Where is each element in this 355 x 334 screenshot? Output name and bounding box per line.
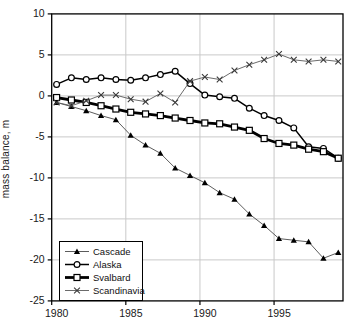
svg-text:-15: -15 <box>30 212 45 224</box>
y-axis-label: mass balance, m <box>0 99 14 219</box>
legend-item-alaska: Alaska <box>64 258 137 271</box>
svg-text:0: 0 <box>39 89 45 101</box>
series-cascade <box>53 99 341 260</box>
cascade-triangle-icon <box>64 246 90 257</box>
legend: Cascade Alaska Svalbard Scandinavia <box>59 241 143 301</box>
svg-text:-25: -25 <box>30 294 45 306</box>
svg-text:1980: 1980 <box>45 307 69 319</box>
alaska-circle-icon <box>64 259 90 270</box>
svalbard-square-icon <box>64 272 90 283</box>
legend-item-svalbard: Svalbard <box>64 271 137 284</box>
legend-item-scandinavia: Scandinavia <box>64 284 137 297</box>
legend-label-scandinavia: Scandinavia <box>93 285 145 296</box>
legend-label-alaska: Alaska <box>93 259 122 270</box>
legend-item-cascade: Cascade <box>64 245 137 258</box>
mass-balance-chart: 1050-5-10-15-20-251980198519901995 mass … <box>0 0 355 334</box>
svg-text:10: 10 <box>33 7 45 19</box>
svg-text:-5: -5 <box>35 130 44 142</box>
svg-text:5: 5 <box>39 48 45 60</box>
svg-text:1995: 1995 <box>267 307 291 319</box>
series-svalbard <box>54 95 342 162</box>
svg-text:1985: 1985 <box>119 307 143 319</box>
legend-label-cascade: Cascade <box>93 246 131 257</box>
svg-text:-10: -10 <box>30 171 45 183</box>
scandinavia-x-icon <box>64 285 90 296</box>
svg-text:1990: 1990 <box>193 307 217 319</box>
series-scandinavia <box>54 51 341 108</box>
legend-label-svalbard: Svalbard <box>93 272 131 283</box>
chart-canvas: 1050-5-10-15-20-251980198519901995 <box>0 0 355 334</box>
svg-text:-20: -20 <box>30 253 45 265</box>
